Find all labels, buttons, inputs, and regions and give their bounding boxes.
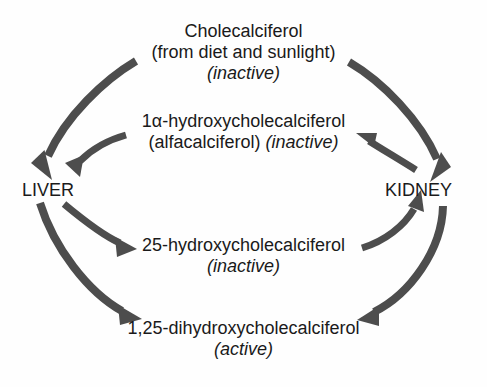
node-1-25-dihydroxycholecalciferol-line1: 1,25-dihydroxycholecalciferol [0,318,487,339]
organ-label-kidney: KIDNEY [385,180,452,201]
node-alfacalciferol-line1: 1α-hydroxycholecalciferol [0,111,487,132]
node-cholecalciferol-line2: (from diet and sunlight) [0,42,487,63]
node-alfacalciferol-line2: (alfacalciferol) (inactive) [0,132,487,153]
node-25-hydroxycholecalciferol-line1: 25-hydroxycholecalciferol [0,235,487,256]
node-25-hydroxycholecalciferol: 25-hydroxycholecalciferol (inactive) [0,235,487,277]
organ-label-liver: LIVER [22,180,74,201]
node-cholecalciferol-state: (inactive) [0,63,487,84]
node-alfacalciferol-synonym: (alfacalciferol) [148,132,265,152]
node-alfacalciferol-state: (inactive) [266,132,339,152]
node-25-hydroxycholecalciferol-state: (inactive) [0,256,487,277]
node-alfacalciferol: 1α-hydroxycholecalciferol (alfacalcifero… [0,111,487,153]
node-1-25-dihydroxycholecalciferol-state: (active) [0,339,487,360]
node-cholecalciferol-line1: Cholecalciferol [0,21,487,42]
diagram-canvas: Cholecalciferol (from diet and sunlight)… [0,0,487,387]
node-cholecalciferol: Cholecalciferol (from diet and sunlight)… [0,21,487,84]
node-1-25-dihydroxycholecalciferol: 1,25-dihydroxycholecalciferol (active) [0,318,487,360]
